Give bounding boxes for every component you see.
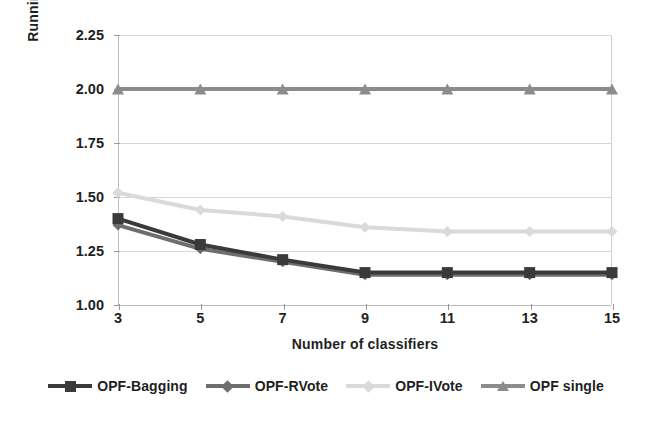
legend-label: OPF single (530, 378, 604, 394)
y-tick-label: 1.75 (58, 135, 104, 151)
gridline-y (119, 305, 611, 306)
x-tick-label: 9 (340, 310, 390, 326)
y-axis-tick-labels: 1.001.251.501.752.002.25 (62, 0, 110, 340)
legend-marker-diamond-icon (221, 380, 234, 393)
data-point-marker (277, 211, 288, 222)
data-point-marker (113, 213, 124, 224)
series-layer (118, 35, 612, 305)
data-point-marker (195, 204, 206, 215)
x-axis-title: Number of classifiers (118, 336, 612, 352)
plot-area (118, 35, 612, 305)
data-point-marker (277, 254, 288, 265)
data-point-marker (360, 222, 371, 233)
series-opf-single (112, 84, 618, 95)
y-tick-label: 2.25 (58, 27, 104, 43)
legend-swatch (346, 378, 390, 394)
x-axis-tick-labels: 3579111315 (118, 310, 612, 334)
x-tick-label: 15 (587, 310, 637, 326)
x-tick-label: 5 (175, 310, 225, 326)
legend-item-opf-bagging[interactable]: OPF-Bagging (48, 378, 188, 394)
x-tick-label: 3 (93, 310, 143, 326)
legend-item-opf-ivote[interactable]: OPF-IVote (346, 378, 463, 394)
legend-label: OPF-RVote (255, 378, 329, 394)
y-tick-label: 1.50 (58, 189, 104, 205)
legend-item-opf-rvote[interactable]: OPF-RVote (206, 378, 329, 394)
data-point-marker (442, 267, 453, 278)
y-tick-label: 1.25 (58, 243, 104, 259)
legend-label: OPF-IVote (395, 378, 463, 394)
legend-item-opf-single[interactable]: OPF single (481, 378, 604, 394)
data-point-marker (195, 239, 206, 250)
data-point-marker (524, 226, 535, 237)
legend-swatch (206, 378, 250, 394)
data-point-marker (607, 267, 618, 278)
legend-swatch (48, 378, 92, 394)
data-point-marker (360, 267, 371, 278)
legend-marker-square-icon (65, 381, 76, 392)
chart-legend: OPF-BaggingOPF-RVoteOPF-IVoteOPF single (0, 378, 652, 394)
legend-label: OPF-Bagging (97, 378, 188, 394)
legend-swatch (481, 378, 525, 394)
legend-marker-triangle-icon (497, 381, 509, 391)
x-tick-label: 11 (422, 310, 472, 326)
x-tick-label: 7 (258, 310, 308, 326)
y-axis-title: Running time (sec.) (16, 0, 50, 90)
line-chart-figure: Running time (sec.) 1.001.251.501.752.00… (0, 0, 652, 427)
legend-marker-diamond-icon (362, 380, 375, 393)
data-point-marker (524, 267, 535, 278)
data-point-marker (442, 226, 453, 237)
x-tick-label: 13 (505, 310, 555, 326)
data-point-marker (607, 226, 618, 237)
series-opf-ivote (113, 187, 618, 237)
y-tick-label: 2.00 (58, 81, 104, 97)
